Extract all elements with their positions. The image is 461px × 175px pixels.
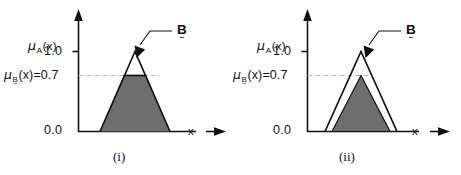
threshold-subscript: B~ xyxy=(241,76,247,84)
leader-arrow-to-set-b xyxy=(364,31,401,58)
set-label-b-inner: B~ xyxy=(406,23,416,37)
threshold-suffix: (x)=0.7 xyxy=(248,68,288,82)
clipped-fill-region xyxy=(100,76,170,132)
mu-glyph: μ xyxy=(257,38,265,53)
figure-root: μA(x) 1.0 0.0 μB~(x)=0.7 x B~ (i) xyxy=(0,0,461,175)
y-tick-label-0.0: 0.0 xyxy=(44,124,62,137)
x-axis-label: x xyxy=(412,126,418,138)
tilde-icon: ~ xyxy=(12,80,18,87)
y-tick-label-0.0: 0.0 xyxy=(273,124,291,137)
tilde-icon: ~ xyxy=(406,34,416,42)
y-axis xyxy=(303,9,312,132)
y-tick-label-1.0: 1.0 xyxy=(273,45,291,58)
threshold-label: μB~(x)=0.7 xyxy=(233,69,287,84)
mu-glyph: μ xyxy=(28,38,36,53)
set-label-b-inner: B~ xyxy=(177,23,187,37)
panel-scaling: μA(x) 1.0 0.0 μB~(x)=0.7 x B~ (ii) xyxy=(231,0,461,175)
panel-caption-i: (i) xyxy=(113,150,125,163)
set-label-b: B~ xyxy=(177,23,187,37)
threshold-suffix: (x)=0.7 xyxy=(19,68,59,82)
threshold-label: μB~(x)=0.7 xyxy=(4,69,58,84)
tilde-icon: ~ xyxy=(177,34,187,42)
x-axis-label: x xyxy=(188,126,194,138)
leader-arrow-to-set-b xyxy=(135,31,172,58)
y-axis xyxy=(74,9,83,132)
panel-clipping: μA(x) 1.0 0.0 μB~(x)=0.7 x B~ (i) xyxy=(0,0,230,175)
mu-glyph-threshold: μ xyxy=(4,67,12,82)
threshold-subscript: B~ xyxy=(12,76,18,84)
tilde-icon: ~ xyxy=(241,80,247,87)
panel-caption-ii: (ii) xyxy=(339,150,355,163)
set-label-b: B~ xyxy=(406,23,416,37)
mu-glyph-threshold: μ xyxy=(233,67,241,82)
scaled-fill-region xyxy=(332,76,390,132)
y-tick-label-1.0: 1.0 xyxy=(44,45,62,58)
